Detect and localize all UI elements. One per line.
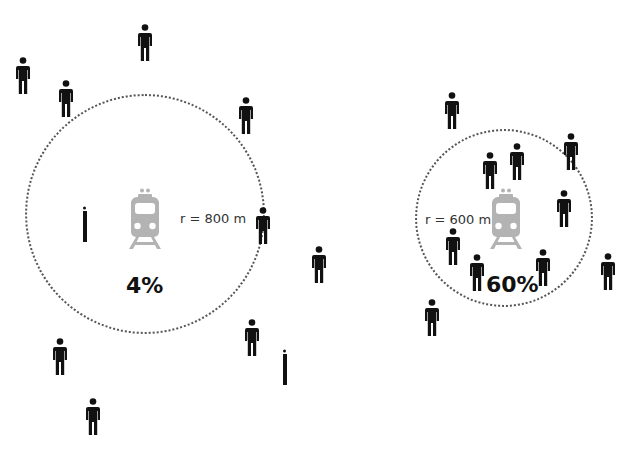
person-icon bbox=[535, 249, 551, 286]
person-icon bbox=[137, 24, 153, 61]
radius-label-left: r = 800 m bbox=[180, 211, 246, 226]
person-icon bbox=[509, 143, 525, 180]
person-icon bbox=[600, 253, 616, 290]
person-icon bbox=[445, 228, 461, 265]
person-icon bbox=[469, 254, 485, 291]
share-label-left: 4% bbox=[126, 273, 163, 298]
person-icon bbox=[238, 97, 254, 134]
transit-catchment-diagram: r = 800 m 4% r = 600 m 60% bbox=[0, 0, 626, 453]
person-icon bbox=[556, 190, 572, 227]
person-icon bbox=[276, 348, 292, 385]
train-icon bbox=[487, 188, 525, 250]
share-label-right: 60% bbox=[486, 272, 539, 297]
person-icon bbox=[563, 133, 579, 170]
radius-label-right: r = 600 m bbox=[425, 212, 491, 227]
person-icon bbox=[444, 92, 460, 129]
person-icon bbox=[85, 398, 101, 435]
person-icon bbox=[58, 80, 74, 117]
person-icon bbox=[482, 152, 498, 189]
train-icon bbox=[126, 188, 164, 250]
person-icon bbox=[424, 299, 440, 336]
person-icon bbox=[76, 205, 92, 242]
person-icon bbox=[15, 57, 31, 94]
person-icon bbox=[311, 246, 327, 283]
person-icon bbox=[52, 338, 68, 375]
person-icon bbox=[244, 319, 260, 356]
person-icon bbox=[255, 207, 271, 244]
